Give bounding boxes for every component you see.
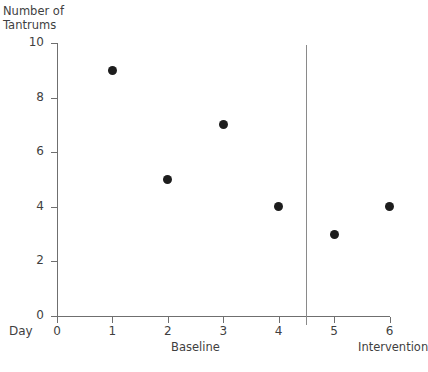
x-tick-label: 5 bbox=[319, 324, 349, 338]
x-tick-label: 1 bbox=[97, 324, 127, 338]
x-tick-mark bbox=[168, 317, 169, 323]
chart-figure: Number of Tantrums 1086420 0123456 Day B… bbox=[0, 0, 428, 372]
x-axis-caption: Day bbox=[9, 324, 33, 338]
x-tick-mark bbox=[223, 317, 224, 323]
chart-title bbox=[176, 0, 316, 2]
x-tick-label: 2 bbox=[153, 324, 183, 338]
y-tick-label: 4 bbox=[4, 199, 44, 213]
y-tick-mark bbox=[51, 43, 57, 44]
y-axis-line bbox=[57, 43, 58, 317]
x-tick-mark bbox=[334, 317, 335, 323]
x-tick-mark bbox=[112, 317, 113, 323]
y-tick-label: 0 bbox=[4, 308, 44, 322]
data-point bbox=[219, 120, 228, 129]
x-tick-label: 4 bbox=[264, 324, 294, 338]
x-tick-mark bbox=[279, 317, 280, 323]
y-tick-label: 6 bbox=[4, 144, 44, 158]
y-tick-mark bbox=[51, 207, 57, 208]
y-tick-label: 10 bbox=[4, 35, 44, 49]
x-tick-mark bbox=[57, 317, 58, 323]
data-point bbox=[108, 66, 117, 75]
data-point bbox=[330, 230, 339, 239]
x-tick-label: 0 bbox=[42, 324, 72, 338]
phase-change-line bbox=[306, 45, 307, 325]
x-tick-mark bbox=[390, 317, 391, 323]
y-tick-mark bbox=[51, 152, 57, 153]
x-tick-label: 3 bbox=[208, 324, 238, 338]
y-tick-label: 8 bbox=[4, 90, 44, 104]
x-tick-label: 6 bbox=[375, 324, 405, 338]
data-point bbox=[163, 175, 172, 184]
y-axis-title: Number of Tantrums bbox=[3, 4, 64, 32]
y-tick-label: 2 bbox=[4, 253, 44, 267]
y-tick-mark bbox=[51, 98, 57, 99]
y-tick-mark bbox=[51, 261, 57, 262]
data-point bbox=[385, 202, 394, 211]
phase-label-intervention: Intervention bbox=[358, 340, 428, 354]
phase-label-baseline: Baseline bbox=[171, 340, 220, 354]
data-point bbox=[274, 202, 283, 211]
